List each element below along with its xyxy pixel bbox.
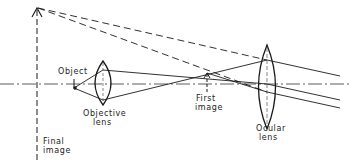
ocular-label-line2: lens — [259, 133, 278, 142]
first-image-label-line2: image — [195, 103, 223, 112]
first-image-arrow — [204, 73, 210, 92]
ocular-label-line1: Ocular — [256, 124, 286, 133]
first-image-label-line1: First — [196, 94, 216, 103]
microscope-diagram: Object Objective lens First image Ocular… — [0, 0, 350, 167]
object-label: Object — [58, 67, 88, 76]
ocular-lens — [259, 45, 276, 129]
final-image-label-line1: Final — [43, 137, 64, 146]
virtual-rays — [38, 8, 267, 92]
objective-label-line1: Objective — [83, 109, 126, 118]
final-image-label-line2: image — [43, 146, 71, 155]
objective-label-line2: lens — [93, 118, 112, 127]
